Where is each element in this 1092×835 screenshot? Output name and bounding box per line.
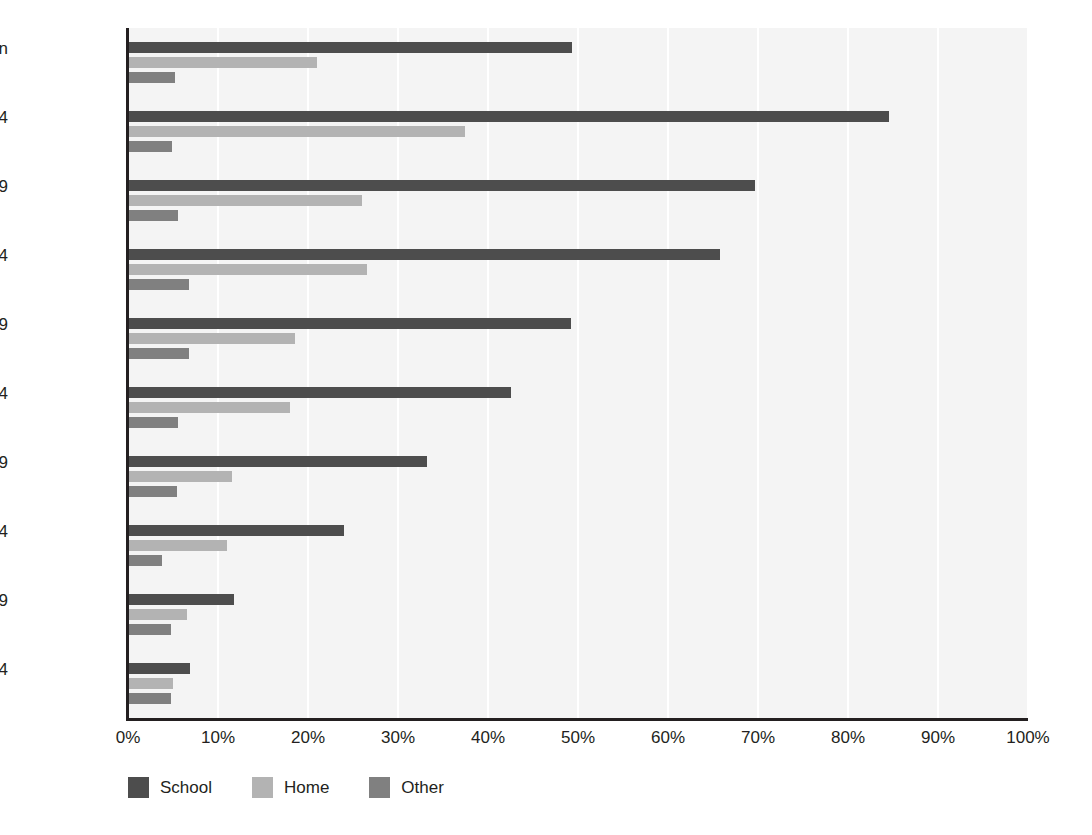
y-tick-label: 18-24	[0, 108, 8, 128]
y-tick-label: 35-39	[0, 315, 8, 335]
bar	[128, 417, 178, 428]
bar	[128, 72, 175, 83]
x-tick-label: 70%	[713, 728, 803, 748]
chart-title	[8, 0, 1088, 2]
bar	[128, 387, 511, 398]
bar	[128, 663, 190, 674]
y-tick-label: 45-49	[0, 453, 8, 473]
bar	[128, 279, 189, 290]
bar-group	[128, 663, 1028, 704]
bar	[128, 594, 234, 605]
bar-group	[128, 525, 1028, 566]
y-tick-label: All women	[0, 39, 8, 59]
legend-swatch-icon	[252, 777, 273, 798]
x-tick-label: 30%	[353, 728, 443, 748]
bar	[128, 333, 295, 344]
x-tick-label: 100%	[983, 728, 1073, 748]
bar	[128, 111, 889, 122]
bar	[128, 348, 189, 359]
legend-item[interactable]: School	[128, 777, 212, 798]
bar-group	[128, 387, 1028, 428]
bar	[128, 555, 162, 566]
y-tick-label: 60-64	[0, 660, 8, 680]
bar-group	[128, 180, 1028, 221]
bar	[128, 456, 427, 467]
bar-group	[128, 456, 1028, 497]
x-tick-label: 10%	[173, 728, 263, 748]
bar	[128, 624, 171, 635]
legend-swatch-icon	[369, 777, 390, 798]
bar	[128, 609, 187, 620]
bar-group	[128, 318, 1028, 359]
bar-group	[128, 42, 1028, 83]
bar	[128, 318, 571, 329]
x-tick-label: 20%	[263, 728, 353, 748]
horizontal-bar-chart: All women18-2425-2930-3435-3940-4445-495…	[0, 0, 1092, 835]
x-tick-label: 40%	[443, 728, 533, 748]
bar	[128, 195, 362, 206]
bar	[128, 210, 178, 221]
bar	[128, 525, 344, 536]
bar	[128, 264, 367, 275]
x-tick-label: 0%	[83, 728, 173, 748]
bar	[128, 471, 232, 482]
legend-label: School	[160, 778, 212, 798]
bar	[128, 141, 172, 152]
x-axis-line	[126, 718, 1028, 721]
legend-swatch-icon	[128, 777, 149, 798]
bar-group	[128, 249, 1028, 290]
bar-group	[128, 111, 1028, 152]
bar	[128, 540, 227, 551]
x-tick-label: 50%	[533, 728, 623, 748]
x-tick-label: 90%	[893, 728, 983, 748]
x-tick-label: 80%	[803, 728, 893, 748]
plot-area	[128, 28, 1028, 718]
y-tick-label: 55-59	[0, 591, 8, 611]
bar	[128, 57, 317, 68]
bar-group	[128, 594, 1028, 635]
y-tick-label: 40-44	[0, 384, 8, 404]
y-tick-label: 50-54	[0, 522, 8, 542]
legend-item[interactable]: Home	[252, 777, 329, 798]
legend-label: Home	[284, 778, 329, 798]
bar	[128, 693, 171, 704]
bar	[128, 402, 290, 413]
x-tick-label: 60%	[623, 728, 713, 748]
bar	[128, 42, 572, 53]
bar	[128, 126, 465, 137]
chart-legend: SchoolHomeOther	[128, 777, 484, 798]
bar	[128, 249, 720, 260]
y-tick-label: 30-34	[0, 246, 8, 266]
bar	[128, 180, 755, 191]
bar	[128, 486, 177, 497]
legend-item[interactable]: Other	[369, 777, 444, 798]
y-tick-label: 25-29	[0, 177, 8, 197]
bar	[128, 678, 173, 689]
y-axis-line	[126, 28, 129, 720]
legend-label: Other	[401, 778, 444, 798]
